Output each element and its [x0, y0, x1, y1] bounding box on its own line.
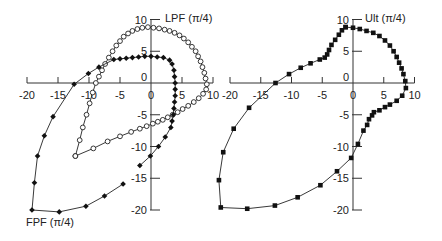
diamond-marker: [162, 134, 168, 140]
open-circle-marker: [167, 29, 172, 34]
square-marker: [318, 183, 323, 188]
open-circle-marker: [191, 100, 196, 105]
open-circle-marker: [172, 30, 177, 35]
diamond-marker: [172, 80, 178, 86]
square-marker: [327, 48, 332, 53]
open-circle-marker: [198, 59, 203, 64]
square-marker: [298, 65, 303, 70]
diamond-marker: [42, 133, 48, 139]
polar-plots: -20-15-10-505101050-5-10-15-20 -20-15-10…: [0, 0, 442, 241]
square-marker: [329, 43, 334, 48]
square-marker: [337, 32, 342, 37]
y-tick-label: -10: [131, 141, 147, 153]
open-circle-marker: [155, 119, 160, 124]
diamond-marker: [168, 125, 174, 131]
open-circle-marker: [90, 90, 95, 95]
square-marker: [377, 108, 382, 113]
diamond-marker: [172, 93, 178, 99]
y-tick-label: -15: [131, 172, 147, 184]
diamond-marker: [161, 55, 167, 61]
diamond-marker: [169, 118, 175, 124]
open-circle-marker: [77, 138, 82, 143]
square-marker: [295, 195, 300, 200]
square-marker: [317, 57, 322, 62]
square-marker: [357, 27, 362, 32]
diamond-marker: [148, 54, 154, 60]
x-tick-label: 5: [381, 89, 387, 101]
x-tick-label: -5: [115, 89, 125, 101]
open-circle-marker: [203, 76, 208, 81]
open-circle-marker: [186, 103, 191, 108]
open-circle-marker: [190, 44, 195, 49]
diamond-marker: [130, 55, 136, 61]
square-marker: [221, 150, 226, 155]
diamond-marker: [50, 114, 56, 120]
square-marker: [401, 72, 406, 77]
y-tick-label: 10: [135, 14, 147, 26]
open-circle-marker: [181, 36, 186, 41]
label-fpf: FPF (π/4): [26, 216, 74, 228]
square-marker: [383, 105, 388, 110]
open-circle-marker: [87, 101, 92, 106]
diamond-marker: [117, 56, 123, 62]
open-circle-marker: [93, 81, 98, 86]
diamond-marker: [83, 203, 89, 209]
open-circle-marker: [105, 139, 110, 144]
open-circle-marker: [150, 121, 155, 126]
open-circle-marker: [114, 43, 119, 48]
y-tick-label: 10: [337, 14, 349, 26]
open-circle-marker: [118, 134, 123, 139]
series-line: [219, 27, 406, 209]
y-tick-label: -10: [333, 141, 349, 153]
open-circle-marker: [118, 39, 123, 44]
y-tick-label: 5: [343, 45, 349, 57]
open-circle-marker: [80, 125, 85, 130]
square-marker: [364, 29, 369, 34]
open-circle-marker: [97, 74, 102, 79]
plot-right: -20-15-10-505101050-5-10-15-20: [217, 14, 421, 217]
diamond-marker: [172, 99, 178, 105]
square-marker: [361, 128, 366, 133]
open-circle-marker: [202, 70, 207, 75]
diamond-marker: [111, 57, 117, 63]
y-tick-label: -20: [131, 204, 147, 216]
x-tick-label: -10: [284, 89, 300, 101]
square-marker: [397, 60, 402, 65]
square-marker: [383, 38, 388, 43]
square-marker: [403, 79, 408, 84]
square-marker: [388, 43, 393, 48]
open-circle-marker: [106, 55, 111, 60]
open-circle-marker: [200, 65, 205, 70]
square-marker: [377, 34, 382, 39]
open-circle-marker: [157, 26, 162, 31]
x-tick-label: 0: [350, 89, 356, 101]
diamond-marker: [172, 74, 178, 80]
y-tick-label: -5: [137, 109, 147, 121]
y-tick-label: 0: [343, 71, 349, 83]
series-line: [32, 56, 175, 212]
diamond-marker: [154, 54, 160, 60]
square-marker: [391, 49, 396, 54]
square-marker: [371, 31, 376, 36]
open-circle-marker: [160, 117, 165, 122]
square-marker: [343, 25, 348, 30]
square-marker: [273, 81, 278, 86]
open-circle-marker: [121, 34, 126, 39]
open-circle-marker: [84, 112, 89, 117]
open-circle-marker: [196, 54, 201, 59]
open-circle-marker: [204, 82, 209, 87]
square-marker: [356, 142, 361, 147]
square-marker: [404, 86, 409, 91]
diamond-marker: [171, 68, 177, 74]
open-circle-marker: [193, 49, 198, 54]
square-marker: [367, 117, 372, 122]
open-circle-marker: [201, 91, 206, 96]
open-circle-marker: [73, 154, 78, 159]
x-tick-label: 10: [207, 89, 219, 101]
square-marker: [400, 93, 405, 98]
open-circle-marker: [196, 96, 201, 101]
open-circle-marker: [175, 110, 180, 115]
x-tick-label: -15: [50, 89, 66, 101]
square-marker: [388, 102, 393, 107]
x-tick-label: 5: [179, 89, 185, 101]
